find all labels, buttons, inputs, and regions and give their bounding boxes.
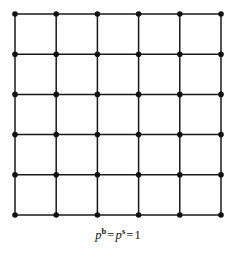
lattice-node [95, 212, 101, 218]
lattice-node [53, 172, 59, 178]
lattice-node [136, 172, 142, 178]
lattice-node [136, 132, 142, 138]
lattice-nodes [12, 11, 224, 218]
lattice-node [136, 11, 142, 17]
lattice-node [218, 92, 224, 98]
lattice-node [53, 51, 59, 57]
lattice-node [136, 92, 142, 98]
lattice-node [12, 212, 18, 218]
lattice-node [136, 51, 142, 57]
lattice-node [95, 51, 101, 57]
lattice-node [177, 11, 183, 17]
lattice-node [218, 172, 224, 178]
figure-caption: pb=ps=1 [0, 228, 236, 243]
lattice-node [177, 212, 183, 218]
lattice-node [53, 11, 59, 17]
lattice-node [218, 212, 224, 218]
lattice-node [12, 11, 18, 17]
caption-value: 1 [134, 228, 140, 242]
lattice-node [218, 11, 224, 17]
lattice-node [95, 92, 101, 98]
lattice-node [136, 212, 142, 218]
lattice-node [12, 92, 18, 98]
lattice-graph [0, 0, 236, 228]
lattice-edges [15, 14, 221, 215]
lattice-node [177, 172, 183, 178]
lattice-node [177, 132, 183, 138]
lattice-node [95, 11, 101, 17]
lattice-figure: pb=ps=1 [0, 0, 236, 259]
lattice-node [12, 172, 18, 178]
caption-equals-1: = [106, 228, 115, 242]
lattice-node [177, 92, 183, 98]
lattice-node [218, 132, 224, 138]
lattice-node [218, 51, 224, 57]
lattice-node [177, 51, 183, 57]
lattice-node [53, 92, 59, 98]
lattice-node [95, 132, 101, 138]
lattice-node [53, 212, 59, 218]
lattice-node [95, 172, 101, 178]
lattice-node [12, 132, 18, 138]
lattice-node [53, 132, 59, 138]
lattice-node [12, 51, 18, 57]
